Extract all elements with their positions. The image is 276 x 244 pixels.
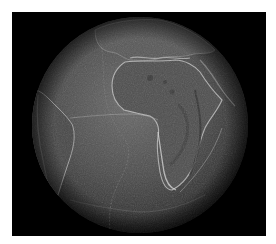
globe-image [0, 0, 276, 244]
